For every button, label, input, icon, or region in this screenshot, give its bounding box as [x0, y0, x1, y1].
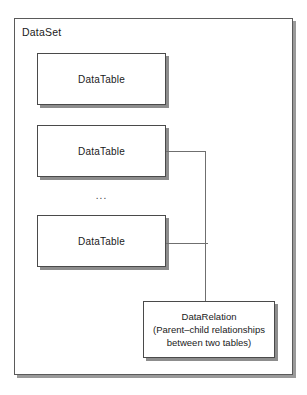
datarelation-box: DataRelation (Parent–child relationships…	[143, 301, 275, 358]
datatable-box-1: DataTable	[37, 53, 166, 105]
ellipsis-label: ...	[37, 190, 166, 201]
connector-line-datatable3	[166, 243, 208, 244]
datatable-label-1: DataTable	[38, 74, 165, 85]
datarelation-description-line-2: between two tables)	[167, 336, 252, 349]
datarelation-title: DataRelation	[182, 310, 237, 323]
datatable-label-2: DataTable	[38, 146, 165, 157]
datatable-box-3: DataTable	[37, 215, 166, 267]
connector-line-vertical	[205, 151, 206, 301]
dataset-diagram: DataSet DataTable DataTable ... DataTabl…	[0, 0, 307, 395]
connector-line-datatable2	[166, 151, 206, 152]
datatable-label-3: DataTable	[38, 236, 165, 247]
datatable-box-2: DataTable	[37, 125, 166, 177]
dataset-label: DataSet	[22, 26, 61, 38]
datarelation-description-line-1: (Parent–child relationships	[153, 323, 265, 336]
